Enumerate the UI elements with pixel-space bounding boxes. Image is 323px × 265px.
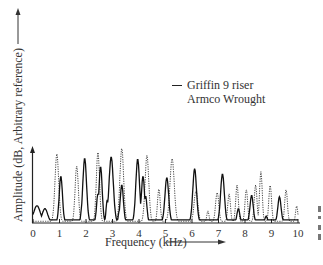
legend-solid-line-icon — [172, 85, 182, 86]
x-tick-label: 9 — [269, 227, 275, 239]
cropped-caption-fragment — [318, 234, 321, 240]
y-label-arrow-icon — [16, 8, 21, 15]
x-tick-label: 2 — [83, 227, 89, 239]
legend-label: Griffin 9 riser — [187, 78, 253, 92]
legend-item-griffin: Griffin 9 riser — [172, 78, 265, 92]
cropped-caption-fragment — [318, 225, 321, 230]
x-tick-label: 8 — [242, 227, 248, 239]
legend: Griffin 9 riser Armco Wrought — [172, 78, 265, 106]
cropped-caption-fragment — [318, 216, 321, 219]
x-label-arrow-icon — [218, 240, 226, 245]
legend-dotted-line-icon — [172, 99, 182, 100]
legend-item-armco: Armco Wrought — [172, 92, 265, 106]
x-tick-label: 7 — [216, 227, 222, 239]
y-axis-label: Amplitude (dB, Arbitrary reference) — [11, 48, 25, 222]
x-tick-label: 1 — [57, 227, 63, 239]
legend-label: Armco Wrought — [187, 92, 265, 106]
y-axis-arrow-icon — [30, 146, 35, 153]
spectrum-chart: Amplitude (dB, Arbitrary reference) 0123… — [0, 0, 323, 265]
x-tick-label: 0 — [30, 227, 36, 239]
cropped-caption-fragment — [318, 206, 321, 212]
x-tick-label: 6 — [189, 227, 195, 239]
x-tick-label: 10 — [293, 227, 305, 239]
